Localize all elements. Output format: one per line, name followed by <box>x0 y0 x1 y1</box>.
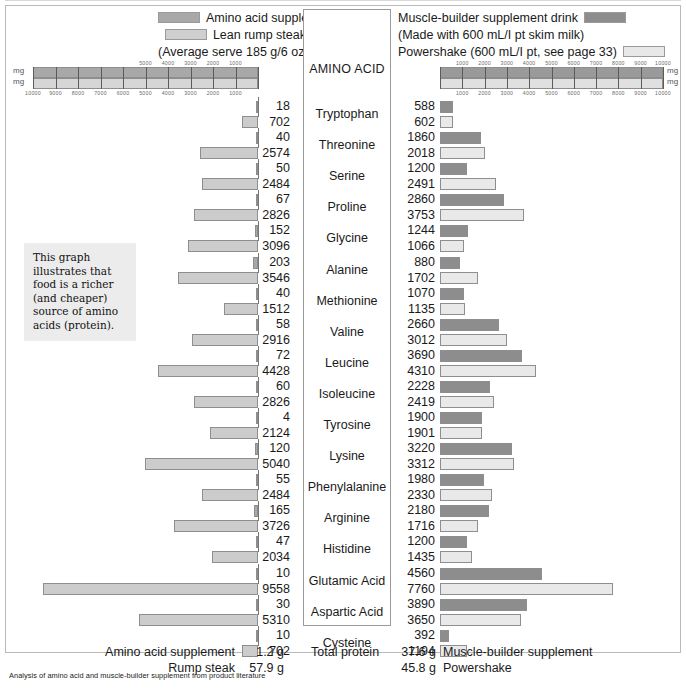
value-powershake: 1716 <box>391 520 435 533</box>
legend-right-item-0: Muscle-builder supplement drink <box>398 10 684 27</box>
value-muscle-builder: 2228 <box>391 380 435 393</box>
right-scale-tick <box>440 67 441 89</box>
left-scale-tick <box>101 67 102 89</box>
value-lean-rump-steak: 1512 <box>246 303 290 316</box>
amino-acid-label: Valine <box>303 325 391 339</box>
amino-acid-label: Histidine <box>303 542 391 556</box>
amino-acid-label: Tyrosine <box>303 418 391 432</box>
bar-muscle-builder-supplement <box>440 132 481 144</box>
legend-swatch-muscle-builder <box>584 12 626 23</box>
right-scale-tick <box>529 67 530 89</box>
amino-acid-label: Lysine <box>303 449 391 463</box>
right-scale-bottom-tick-label: 8000 <box>612 90 625 96</box>
left-scale-tick <box>56 67 57 89</box>
bar-muscle-builder-supplement <box>440 350 522 362</box>
value-powershake: 3650 <box>391 614 435 627</box>
legend-right-label-0: Muscle-builder supplement drink <box>398 11 578 25</box>
legend-swatch-amino-acid-supplement <box>158 12 200 23</box>
value-lean-rump-steak: 4428 <box>246 365 290 378</box>
value-amino-acid-supplement: 120 <box>246 442 290 455</box>
amino-acid-chart-page: Amino acid supplement Lean rump steak (A… <box>0 0 686 692</box>
bar-muscle-builder-supplement <box>440 194 504 206</box>
value-lean-rump-steak: 3726 <box>246 520 290 533</box>
left-scale-bottom-tick-label: 6000 <box>117 90 130 96</box>
value-muscle-builder: 1070 <box>391 287 435 300</box>
amino-acid-label: Leucine <box>303 356 391 370</box>
bar-powershake <box>440 116 453 128</box>
value-powershake: 1135 <box>391 303 435 316</box>
bar-lean-rump-steak <box>145 458 258 470</box>
value-amino-acid-supplement: 203 <box>246 256 290 269</box>
left-scale <box>33 67 258 89</box>
value-amino-acid-supplement: 40 <box>246 131 290 144</box>
left-unit-mg-bottom: mg <box>13 77 24 86</box>
legend-right-item-2: Powershake (600 mL/I pt, see page 33) <box>398 44 684 61</box>
legend-left-item-1: Lean rump steak <box>158 27 306 44</box>
bar-muscle-builder-supplement <box>440 381 490 393</box>
value-lean-rump-steak: 2574 <box>246 147 290 160</box>
right-scale-top-tick-label: 1000 <box>456 60 469 66</box>
amino-acid-label: Tryptophan <box>303 107 391 121</box>
right-scale-bottom-tick-label: 5000 <box>545 90 558 96</box>
amino-acid-label: Alanine <box>303 263 391 277</box>
bar-powershake <box>440 396 494 408</box>
value-lean-rump-steak: 5310 <box>246 614 290 627</box>
value-muscle-builder: 392 <box>391 629 435 642</box>
right-scale-bottom-tick-label: 10000 <box>655 90 671 96</box>
bar-powershake <box>440 551 472 563</box>
total-left-row-0: Amino acid supplement <box>60 644 235 660</box>
right-scale-bottom-tick-label: 4000 <box>523 90 536 96</box>
value-muscle-builder: 1980 <box>391 473 435 486</box>
bar-muscle-builder-supplement <box>440 225 468 237</box>
total-left-value-0: 1.2 g <box>240 644 284 660</box>
bar-powershake <box>440 365 536 377</box>
value-amino-acid-supplement: 72 <box>246 349 290 362</box>
right-scale-tick <box>552 67 553 89</box>
right-scale-bottom-tick-label: 2000 <box>478 90 491 96</box>
right-scale-tick <box>596 67 597 89</box>
bar-muscle-builder-supplement <box>440 319 499 331</box>
value-lean-rump-steak: 702 <box>246 116 290 129</box>
value-amino-acid-supplement: 10 <box>246 567 290 580</box>
left-scale-tick <box>236 67 237 89</box>
left-scale-top-tick-label: 4000 <box>162 60 175 66</box>
amino-acid-label: Serine <box>303 169 391 183</box>
bar-muscle-builder-supplement <box>440 536 467 548</box>
right-scale-bottom-tick-label: 3000 <box>501 90 514 96</box>
left-scale-top-tick-label: 5000 <box>139 60 152 66</box>
value-lean-rump-steak: 2826 <box>246 209 290 222</box>
value-powershake: 602 <box>391 116 435 129</box>
value-muscle-builder: 3890 <box>391 598 435 611</box>
value-muscle-builder: 588 <box>391 100 435 113</box>
amino-acid-label: Isoleucine <box>303 387 391 401</box>
value-amino-acid-supplement: 50 <box>246 162 290 175</box>
value-lean-rump-steak: 3546 <box>246 272 290 285</box>
value-lean-rump-steak: 2034 <box>246 551 290 564</box>
amino-acid-column-header: AMINO ACID <box>303 62 391 76</box>
left-scale-bottom-tick-label: 7000 <box>94 90 107 96</box>
legend-left-label-1: Lean rump steak <box>213 28 306 42</box>
right-scale <box>440 67 663 89</box>
value-powershake: 3753 <box>391 209 435 222</box>
right-scale-top-tick-label: 7000 <box>590 60 603 66</box>
value-lean-rump-steak: 9558 <box>246 583 290 596</box>
bar-muscle-builder-supplement <box>440 630 449 642</box>
total-right-label-1: Powershake <box>443 660 512 676</box>
bar-powershake <box>440 334 507 346</box>
right-scale-tick <box>641 67 642 89</box>
bar-powershake <box>440 240 464 252</box>
bar-powershake <box>440 272 478 284</box>
value-muscle-builder: 2180 <box>391 504 435 517</box>
amino-acid-label: Threonine <box>303 138 391 152</box>
value-powershake: 2419 <box>391 396 435 409</box>
value-muscle-builder: 1200 <box>391 162 435 175</box>
right-scale-bottom-tick-label: 6000 <box>567 90 580 96</box>
bar-powershake <box>440 489 492 501</box>
bar-muscle-builder-supplement <box>440 101 453 113</box>
bar-powershake <box>440 303 465 315</box>
bar-powershake <box>440 209 524 221</box>
bar-powershake <box>440 427 482 439</box>
amino-acid-label: Cysteine <box>303 636 391 650</box>
bar-muscle-builder-supplement <box>440 412 482 424</box>
bar-muscle-builder-supplement <box>440 505 489 517</box>
